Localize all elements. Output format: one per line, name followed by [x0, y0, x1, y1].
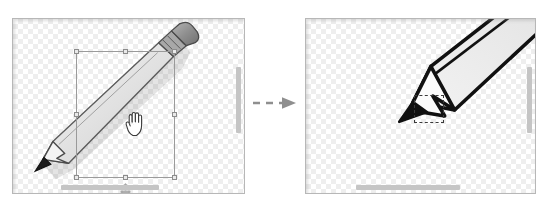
cursor-label — [0, 0, 1, 1]
selection-handle-bottom-center[interactable] — [123, 175, 128, 180]
selection-handle-middle-left[interactable] — [74, 112, 79, 117]
pencil-lead-tip — [35, 157, 51, 171]
horizontal-scrollbar-thumb[interactable] — [61, 185, 159, 190]
selection-handle-bottom-right[interactable] — [172, 175, 177, 180]
selection-handle-top-center[interactable] — [123, 49, 128, 54]
selection-handle-middle-right[interactable] — [172, 112, 177, 117]
vertical-scrollbar[interactable] — [236, 21, 243, 183]
before-panel-label — [0, 0, 1, 1]
after-panel-label — [0, 0, 1, 1]
selection-handle-top-left[interactable] — [74, 49, 79, 54]
selection-label — [0, 0, 1, 1]
selection-handle-bottom-left[interactable] — [74, 175, 79, 180]
horizontal-scrollbar-thumb[interactable] — [356, 185, 460, 190]
vertical-scrollbar-thumb[interactable] — [527, 67, 532, 133]
before-art-label — [0, 0, 1, 1]
after-art-label — [0, 0, 1, 1]
dashed-arrow-right-icon — [252, 94, 298, 112]
vertical-scrollbar-thumb[interactable] — [236, 67, 241, 133]
after-panel[interactable] — [305, 18, 536, 194]
figure-stage — [0, 0, 547, 211]
dashed-target-box[interactable] — [414, 95, 444, 123]
vertical-scrollbar[interactable] — [527, 21, 534, 183]
selection-handle-top-right[interactable] — [172, 49, 177, 54]
target-marker-label — [0, 0, 1, 1]
pencil-wood-cone — [43, 142, 69, 164]
pencil-eraser — [172, 22, 199, 45]
grab-hand-icon[interactable] — [125, 111, 145, 138]
before-panel[interactable] — [12, 18, 245, 194]
